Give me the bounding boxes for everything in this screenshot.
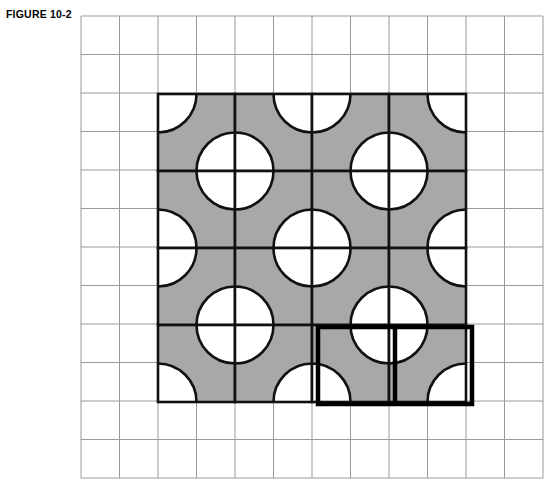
pattern-tile (158, 94, 235, 171)
quarter-circle-tessellation (158, 94, 466, 402)
pattern-tile (389, 248, 466, 325)
pattern-tile (312, 248, 389, 325)
pattern-tile (389, 171, 466, 248)
pattern-tile (389, 325, 466, 402)
pattern-tile (158, 325, 235, 402)
pattern-tile (235, 248, 312, 325)
figure-stage (0, 0, 548, 495)
pattern-tile (312, 325, 389, 402)
pattern-tile (312, 94, 389, 171)
pattern-tile (158, 171, 235, 248)
pattern-tile (312, 171, 389, 248)
pattern-tile (389, 94, 466, 171)
figure-canvas (0, 0, 548, 495)
pattern-tile (158, 248, 235, 325)
pattern-tile (235, 325, 312, 402)
pattern-tile (235, 94, 312, 171)
pattern-tile (235, 171, 312, 248)
